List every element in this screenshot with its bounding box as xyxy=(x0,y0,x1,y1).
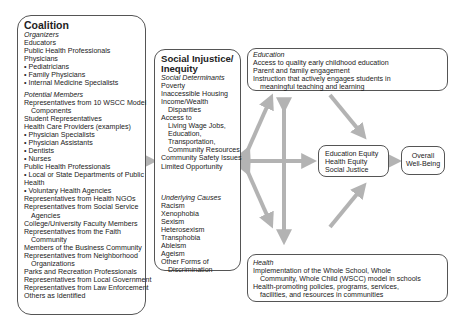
health-box: Health Implementation of the Whole Schoo… xyxy=(247,254,448,302)
list-item: Educators xyxy=(24,39,142,47)
list-item: Public Health Professionals xyxy=(24,47,142,55)
list-item: meaningful teaching and learning xyxy=(253,83,444,91)
list-item: Disparities xyxy=(161,106,238,114)
list-item: Representatives from Local Government xyxy=(24,276,142,284)
list-item: Living Wage Jobs, xyxy=(161,122,238,130)
education-heading: Education xyxy=(253,51,444,59)
members-list: Representatives from 10 WSCC Model Compo… xyxy=(24,99,142,300)
health-heading: Health xyxy=(253,259,444,267)
list-item: Limited Opportunity xyxy=(161,163,238,171)
list-item: Access to xyxy=(161,114,238,122)
list-item: Education, xyxy=(161,130,238,138)
coalition-box: Coalition Organizers Educators Public He… xyxy=(17,15,146,315)
list-item: Parks and Recreation Professionals xyxy=(24,268,142,276)
wellbeing-line2: Well-Being xyxy=(402,160,444,168)
list-item: Others as Identified xyxy=(24,292,142,300)
list-item: Representatives from the Faith xyxy=(24,228,142,236)
list-item: Community Resources xyxy=(161,146,238,154)
organizers-list: Educators Public Health Professionals Ph… xyxy=(24,39,142,87)
list-item: Transphobia xyxy=(161,234,238,242)
list-item: Agencies xyxy=(24,212,142,220)
list-item: Community Safety Issues xyxy=(161,154,238,162)
injustice-title-line2: Inequity xyxy=(161,64,238,74)
list-item: • Family Physicians xyxy=(24,71,142,79)
list-item: • Internal Medicine Specialists xyxy=(24,79,142,87)
list-item: Ageism xyxy=(161,250,238,258)
equity-line: Education Equity xyxy=(325,150,388,158)
list-item: Community, Whole Child (WSCC) model in s… xyxy=(253,275,444,283)
list-item: Public Health Professionals xyxy=(24,163,142,171)
list-item: Organizations xyxy=(24,260,142,268)
list-item: facilities, and resources in communities xyxy=(253,291,444,299)
list-item: Student Representatives xyxy=(24,115,142,123)
list-item: Health Care Providers (examples) xyxy=(24,123,142,131)
list-item: Transportation, xyxy=(161,138,238,146)
arrow-injustice-health xyxy=(247,170,270,222)
causes-heading: Underlying Causes xyxy=(161,194,238,202)
list-item: Income/Wealth xyxy=(161,98,238,106)
wellbeing-box: Overall Well-Being xyxy=(401,146,445,175)
list-item: • Nurses xyxy=(24,155,142,163)
equity-box: Education Equity Health Equity Social Ju… xyxy=(318,145,389,177)
list-item: Sexism xyxy=(161,218,238,226)
list-item: Other Forms of xyxy=(161,258,238,266)
list-item: • Physician Assistants xyxy=(24,139,142,147)
list-item: Community xyxy=(24,236,142,244)
list-item: Representatives from 10 WSCC Model xyxy=(24,99,142,107)
determinants-list: Poverty Inaccessible Housing Income/Weal… xyxy=(161,82,238,171)
list-item: Instruction that actively engages studen… xyxy=(253,75,444,83)
arrow-health-to-equity xyxy=(330,188,362,227)
list-item: Components xyxy=(24,107,142,115)
list-item: Poverty xyxy=(161,82,238,90)
list-item: Representatives from Neighborhood xyxy=(24,252,142,260)
arrow-injustice-education xyxy=(247,100,270,152)
arrow-education-to-equity xyxy=(330,95,362,134)
causes-list: Racism Xenophobia Sexism Heterosexism Tr… xyxy=(161,202,238,274)
wellbeing-line1: Overall xyxy=(402,152,444,160)
list-item: Health-promoting policies, programs, ser… xyxy=(253,283,444,291)
list-item: • Voluntary Health Agencies xyxy=(24,187,142,195)
social-injustice-box: Social Injustice/ Inequity Social Determ… xyxy=(154,49,241,271)
list-item: Implementation of the Whole School, Whol… xyxy=(253,267,444,275)
list-item: Representatives from Law Enforcement xyxy=(24,284,142,292)
list-item: Physicians xyxy=(24,55,142,63)
list-item: Ableism xyxy=(161,242,238,250)
list-item: Representatives from Health NGOs xyxy=(24,195,142,203)
list-item: Access to quality early childhood educat… xyxy=(253,59,444,67)
list-item: College/University Faculty Members xyxy=(24,220,142,228)
list-item: Racism xyxy=(161,202,238,210)
list-item: Inaccessible Housing xyxy=(161,90,238,98)
list-item: Health xyxy=(24,179,142,187)
list-item: Heterosexism xyxy=(161,226,238,234)
list-item: Representatives from Social Service xyxy=(24,203,142,211)
list-item: Members of the Business Community xyxy=(24,244,142,252)
list-item: • Pediatricians xyxy=(24,63,142,71)
list-item: Discrimination xyxy=(161,266,238,274)
determinants-heading: Social Determinants xyxy=(161,74,238,82)
education-box: Education Access to quality early childh… xyxy=(247,48,448,91)
list-item: Parent and family engagement xyxy=(253,67,444,75)
organizers-heading: Organizers xyxy=(24,31,142,39)
list-item: Xenophobia xyxy=(161,210,238,218)
members-heading: Potential Members xyxy=(24,91,142,99)
list-item: • Physician Specialists xyxy=(24,131,142,139)
list-item: • Dentists xyxy=(24,147,142,155)
list-item: • Local or State Departments of Public xyxy=(24,171,142,179)
equity-line: Social Justice xyxy=(325,166,388,174)
coalition-title: Coalition xyxy=(24,20,142,31)
equity-line: Health Equity xyxy=(325,158,388,166)
